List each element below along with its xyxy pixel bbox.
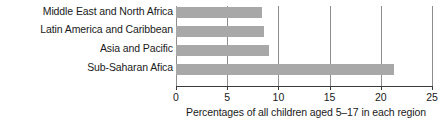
bar — [176, 64, 394, 75]
x-tick-label: 10 — [263, 91, 293, 103]
x-tick-mark — [227, 87, 228, 90]
category-label: Latin America and Caribbean — [0, 24, 173, 35]
x-tick-label: 15 — [315, 91, 345, 103]
x-tick-label: 0 — [161, 91, 191, 103]
x-tick-mark — [176, 87, 177, 90]
plot-area — [176, 6, 432, 86]
x-tick-label: 20 — [366, 91, 396, 103]
x-axis-title: Percentages of all children aged 5–17 in… — [176, 106, 436, 118]
bar — [176, 7, 262, 18]
x-tick-mark — [330, 87, 331, 90]
x-tick-label: 25 — [417, 91, 446, 103]
x-tick-mark — [278, 87, 279, 90]
category-label: Asia and Pacific — [0, 43, 173, 54]
bar — [176, 26, 264, 37]
x-tick-label: 5 — [212, 91, 242, 103]
category-axis-labels: Middle East and North Africa Latin Ameri… — [0, 6, 173, 86]
x-tick-mark — [432, 87, 433, 90]
bar-chart: Middle East and North Africa Latin Ameri… — [0, 0, 446, 129]
gridline-25 — [432, 6, 433, 86]
x-tick-mark — [381, 87, 382, 90]
x-axis-line — [176, 86, 433, 87]
bar — [176, 45, 269, 56]
category-label: Sub-Saharan Afica — [0, 62, 173, 73]
category-label: Middle East and North Africa — [0, 6, 173, 17]
